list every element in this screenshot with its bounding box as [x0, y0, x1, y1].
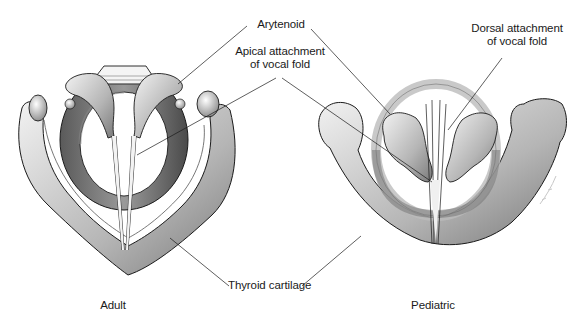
- adult-larynx-drawing: [19, 66, 235, 275]
- caption-adult: Adult: [96, 299, 130, 312]
- label-apical-line2: of vocal fold: [224, 58, 336, 71]
- label-apical-attachment: Apical attachment of vocal fold: [224, 45, 336, 71]
- label-dorsal-line1: Dorsal attachment: [462, 22, 572, 35]
- pediatric-larynx-drawing: [319, 84, 567, 245]
- label-dorsal-line2: of vocal fold: [462, 35, 572, 48]
- label-apical-line1: Apical attachment: [224, 45, 336, 58]
- caption-pediatric: Pediatric: [404, 299, 462, 312]
- label-arytenoid: Arytenoid: [254, 18, 308, 31]
- label-dorsal-attachment: Dorsal attachment of vocal fold: [462, 22, 572, 48]
- label-thyroid-cartilage: Thyroid cartilage: [228, 279, 310, 292]
